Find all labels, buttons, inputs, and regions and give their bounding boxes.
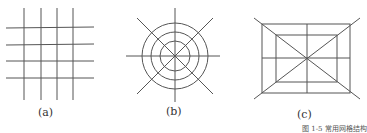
figure-c-label: (c) bbox=[297, 108, 312, 121]
figure-a-label: (a) bbox=[38, 106, 53, 119]
figure-caption: 图 1-5 常用网格结构 bbox=[302, 123, 367, 133]
figure-c-nested-rect bbox=[254, 18, 360, 99]
figure-a-grid bbox=[6, 8, 94, 100]
figure-b-radial bbox=[126, 8, 220, 102]
figure-b-label: (b) bbox=[166, 105, 182, 118]
